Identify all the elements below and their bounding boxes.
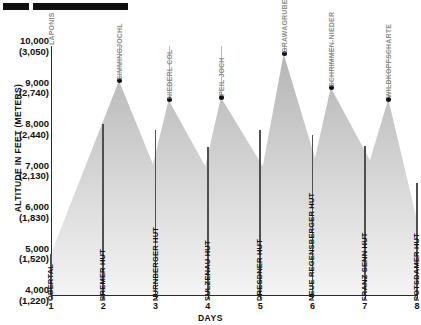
hut-label: POTSDAMER HUT xyxy=(412,233,421,301)
hut-label: SULZENAU HUT xyxy=(203,240,212,301)
pass-label: NIEDERL COL xyxy=(166,49,173,99)
hut-label: DRESDNER HUT xyxy=(255,239,264,301)
x-axis-tick-mark xyxy=(208,295,209,299)
pass-label: WILDKOPFSCHARTE xyxy=(385,24,392,98)
pass-label: GRAWAGRUBENNIEDER xyxy=(281,0,288,53)
hut-label: BREMER HUT xyxy=(98,249,107,301)
x-axis-title: DAYS xyxy=(0,313,421,323)
x-axis-tick-mark xyxy=(260,295,261,299)
x-axis-tick-label: 5 xyxy=(250,301,270,311)
altitude-profile-chart: ALTITUDE IN FEET (METERS) 10,000(3,050)9… xyxy=(0,0,421,325)
x-axis-tick-label: 4 xyxy=(198,301,218,311)
hut-label: FRANZ SENN HUT xyxy=(360,232,369,301)
x-axis-tick-label: 1 xyxy=(41,301,61,311)
x-axis-tick-mark xyxy=(312,295,313,299)
x-axis-tick-mark xyxy=(103,295,104,299)
x-axis-tick-label: 2 xyxy=(93,301,113,311)
pass-label: LAPONIS xyxy=(48,12,55,45)
x-axis-tick-label: 6 xyxy=(302,301,322,311)
x-axis-tick-label: 7 xyxy=(355,301,375,311)
pass-label: SIMMINGJOCHL xyxy=(116,23,123,80)
x-axis-tick-mark xyxy=(417,295,418,299)
hut-label: NURNBERGER HUT xyxy=(151,227,160,301)
x-axis-tick-mark xyxy=(51,295,52,299)
x-axis-tick-mark xyxy=(365,295,366,299)
pass-label: SCHRIMMEN-NIEDER xyxy=(328,11,335,86)
hut-label: NEUE REGENSBERGER HUT xyxy=(307,193,316,301)
x-axis-tick-label: 8 xyxy=(407,301,421,311)
x-axis-tick-mark xyxy=(156,295,157,299)
pass-label: PEIL JOCH xyxy=(218,58,225,97)
x-axis-tick-label: 3 xyxy=(146,301,166,311)
